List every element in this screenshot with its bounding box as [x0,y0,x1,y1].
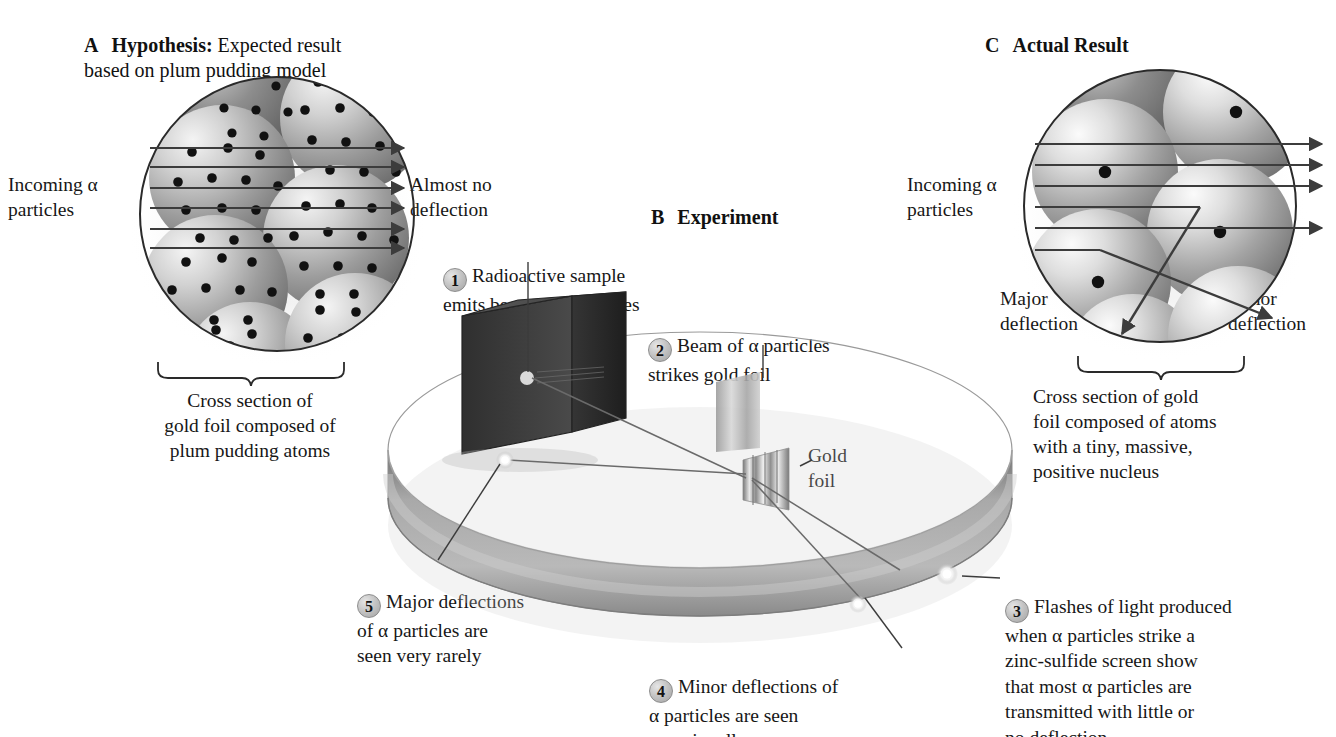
panel-c-alpha-beams [1035,144,1322,250]
gold-foil-label: Gold foil [808,443,898,493]
step-4-text: Minor deflections of α particles are see… [649,676,838,737]
step-3-number: 3 [1005,599,1029,623]
panel-c-minor-deflection-label: Minor deflection [1228,286,1336,336]
step-2-number: 2 [648,338,672,362]
gold-foil [716,372,789,510]
step-2: 2Beam of α particles strikes gold foil [648,307,898,387]
panel-a-left-label: Incoming α particles [8,172,158,222]
panel-c-major-deflection-label: Major deflection [1000,286,1110,336]
step-2-text: Beam of α particles strikes gold foil [648,335,830,385]
panel-a-right-label: Almost no deflection [410,172,570,222]
figure-root: AHypothesis: Expected result based on pl… [0,0,1336,737]
step-3: 3Flashes of light produced when α partic… [1005,568,1295,737]
step-1: 1Radioactive sample emits beam of α part… [443,237,713,317]
step-3-text: Flashes of light produced when α particl… [1005,596,1232,737]
step-5-text: Major deflections of α particles are see… [357,591,524,667]
step-4: 4Minor deflections of α particles are se… [649,648,909,737]
panel-c-nuclei [1092,106,1244,342]
step-1-number: 1 [443,268,467,292]
step-1-text: Radioactive sample emits beam of α parti… [443,265,640,315]
step-5: 5Major deflections of α particles are se… [357,563,582,669]
leader-step-4 [865,598,902,648]
panel-a-atom-circle [127,32,427,434]
panel-c-title: Actual Result [1012,34,1128,56]
panel-c-atom-circle [1010,26,1310,426]
leader-step-5 [438,464,500,560]
panel-b-heading: BExperiment [651,180,871,230]
panel-a-caption: Cross section of gold foil composed of p… [120,388,380,463]
panel-c-heading: CActual Result [985,8,1285,58]
panel-a-heading: AHypothesis: Expected result based on pl… [84,8,414,83]
panel-b-title: Experiment [677,206,778,228]
panel-a-electrons [167,71,411,388]
panel-b-letter: B [651,206,664,228]
panel-c-letter: C [985,34,999,56]
panel-a-title-bold: Hypothesis: [111,34,212,56]
panel-c-atoms [1025,26,1309,426]
panel-a-atoms [142,32,426,434]
panel-c-left-label: Incoming α particles [907,172,1057,222]
panel-a-brace [158,362,344,386]
step-5-number: 5 [357,594,381,618]
radioactive-source-box [442,292,626,472]
panel-a-alpha-beams [150,148,404,248]
panel-c-caption: Cross section of gold foil composed of a… [1033,384,1303,484]
step-4-number: 4 [649,679,673,703]
panel-c-brace [1078,356,1244,380]
panel-a-letter: A [84,34,98,56]
leader-step-3 [962,576,1000,578]
